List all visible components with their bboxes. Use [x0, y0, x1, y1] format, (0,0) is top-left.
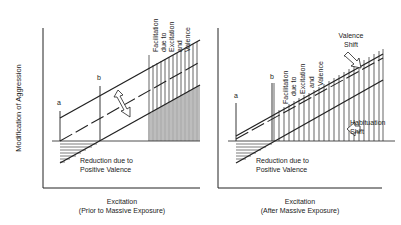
- svg-text:Facilitation: Facilitation: [152, 18, 159, 52]
- svg-text:(After Massive Exposure): (After Massive Exposure): [261, 207, 340, 215]
- svg-text:Facilitation: Facilitation: [282, 70, 289, 104]
- svg-text:(Prior to Massive Exposure): (Prior to Massive Exposure): [79, 207, 165, 215]
- svg-text:and: and: [176, 40, 183, 52]
- right-label-b: b: [270, 73, 274, 80]
- svg-text:Shift: Shift: [344, 41, 358, 48]
- left-label-a: a: [57, 99, 61, 106]
- svg-text:Shift: Shift: [350, 128, 364, 135]
- double-arrow-icon: [114, 90, 130, 117]
- svg-text:Valence: Valence: [184, 27, 191, 52]
- right-reduction-label: Reduction due to Positive Valence: [256, 157, 309, 173]
- right-x-axis-label: Excitation (After Massive Exposure): [261, 198, 340, 215]
- svg-text:and: and: [308, 76, 315, 88]
- left-x-axis-label: Excitation (Prior to Massive Exposure): [79, 198, 165, 215]
- valence-shift-label: Valence Shift: [339, 32, 364, 48]
- left-facilitation-label: Facilitation due to Excitation and Valen…: [152, 18, 191, 52]
- right-panel: [218, 28, 395, 188]
- svg-text:Valence: Valence: [339, 32, 364, 39]
- y-axis-label: Modification of Aggression: [14, 64, 23, 152]
- left-label-b: b: [97, 74, 101, 81]
- svg-text:due to: due to: [290, 76, 297, 96]
- svg-text:Valence: Valence: [317, 61, 324, 86]
- svg-text:Excitation: Excitation: [168, 22, 175, 52]
- right-facilitation-label: Facilitation due to Excitation and Valen…: [282, 61, 324, 104]
- svg-text:Excitation: Excitation: [107, 198, 137, 205]
- facilitation-hatch: [149, 42, 197, 141]
- left-reduction-label: Reduction due to Positive Valence: [80, 157, 133, 173]
- right-label-a: a: [234, 92, 238, 99]
- svg-text:Reduction due to: Reduction due to: [80, 157, 133, 164]
- diagram: Modification of Aggression: [0, 0, 401, 225]
- svg-text:Excitation: Excitation: [299, 64, 306, 94]
- svg-text:due to: due to: [160, 32, 167, 52]
- svg-text:Habituation: Habituation: [350, 119, 386, 126]
- valence-shift-arrow-icon: [344, 52, 361, 68]
- svg-text:Excitation: Excitation: [285, 198, 315, 205]
- svg-text:Positive Valence: Positive Valence: [256, 166, 307, 173]
- svg-text:Positive Valence: Positive Valence: [80, 166, 131, 173]
- svg-text:Reduction due to: Reduction due to: [256, 157, 309, 164]
